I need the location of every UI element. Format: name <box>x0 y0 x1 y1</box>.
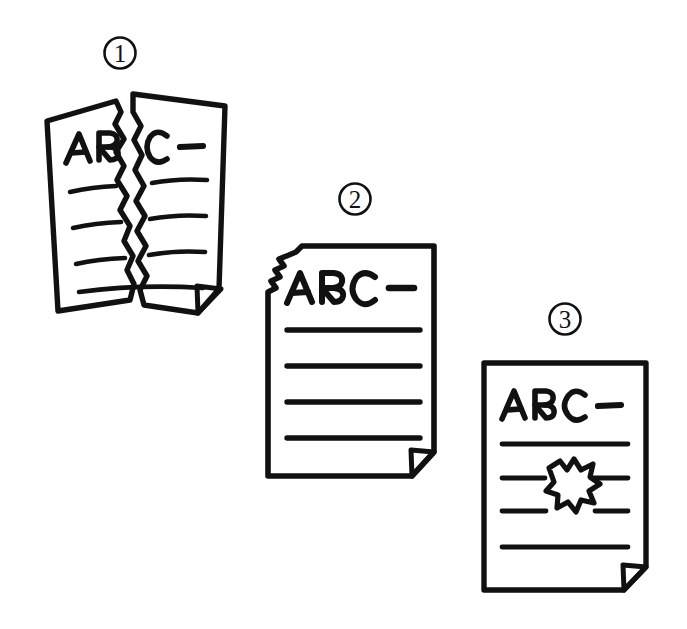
marker-1-label: 1 <box>114 40 127 67</box>
illustration-canvas: 1 <box>0 0 687 629</box>
document-3-hole-punched <box>484 363 646 590</box>
marker-2: 2 <box>340 184 371 215</box>
marker-1: 1 <box>105 38 136 69</box>
marker-2-label: 2 <box>349 186 362 213</box>
document-2-torn-corner <box>268 246 434 476</box>
document-1-torn-in-half <box>47 94 225 313</box>
marker-3: 3 <box>550 304 581 335</box>
marker-3-label: 3 <box>559 306 572 333</box>
document-2-sheet <box>268 246 434 476</box>
